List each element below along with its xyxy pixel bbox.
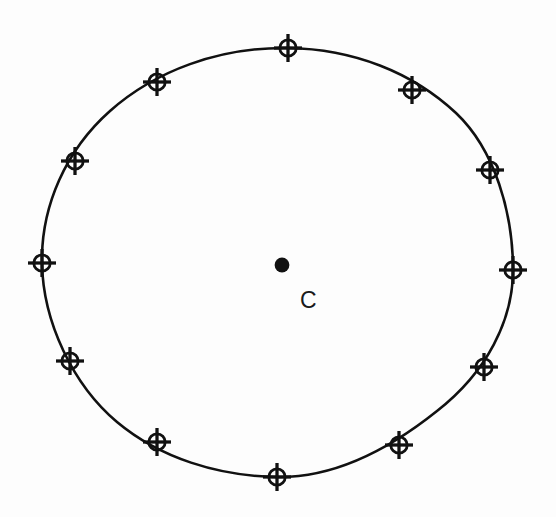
figure-canvas: C <box>0 0 556 517</box>
center-point-dot <box>275 258 290 273</box>
background <box>0 0 556 517</box>
center-point-label: C <box>300 287 317 313</box>
circle-diagram: C <box>0 0 556 517</box>
